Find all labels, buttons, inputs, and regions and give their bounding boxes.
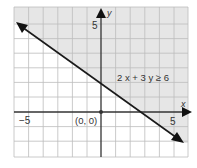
origin-label: (0, 0) <box>75 115 97 126</box>
inequality-label: 2 x + 3 y ≥ 6 <box>117 72 169 83</box>
x-axis-label: x <box>180 99 186 109</box>
y-tick-5: 5 <box>92 20 98 31</box>
origin-point <box>99 110 103 114</box>
coordinate-plane: y 5 x −5 5 (0, 0) 2 x + 3 y ≥ 6 <box>0 0 197 168</box>
x-tick-5: 5 <box>170 116 176 127</box>
x-tick-neg5: −5 <box>19 115 31 126</box>
y-axis-label: y <box>106 8 112 18</box>
